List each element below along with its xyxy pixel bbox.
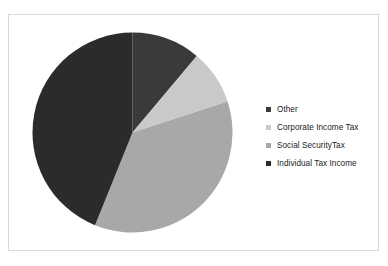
- pie-chart-figure: Other Corporate Income Tax Social Securi…: [0, 0, 388, 266]
- chart-legend: Other Corporate Income Tax Social Securi…: [266, 101, 378, 173]
- legend-label-other: Other: [277, 105, 298, 114]
- legend-item-individual-tax-income[interactable]: Individual Tax Income: [266, 155, 378, 171]
- legend-item-corporate-income-tax[interactable]: Corporate Income Tax: [266, 119, 378, 135]
- legend-label-individual-tax-income: Individual Tax Income: [277, 159, 357, 168]
- legend-label-corporate-income-tax: Corporate Income Tax: [277, 123, 358, 132]
- legend-item-social-security-tax[interactable]: Social SecurityTax: [266, 137, 378, 153]
- legend-swatch-other: [266, 107, 271, 112]
- legend-item-other[interactable]: Other: [266, 101, 378, 117]
- legend-swatch-social-security-tax: [266, 143, 271, 148]
- pie-plot-area: [32, 32, 233, 233]
- legend-swatch-individual-tax-income: [266, 161, 271, 166]
- legend-label-social-security-tax: Social SecurityTax: [277, 141, 345, 150]
- pie-svg: [32, 32, 233, 233]
- pie-slice-group: [33, 33, 233, 233]
- legend-swatch-corporate-income-tax: [266, 125, 271, 130]
